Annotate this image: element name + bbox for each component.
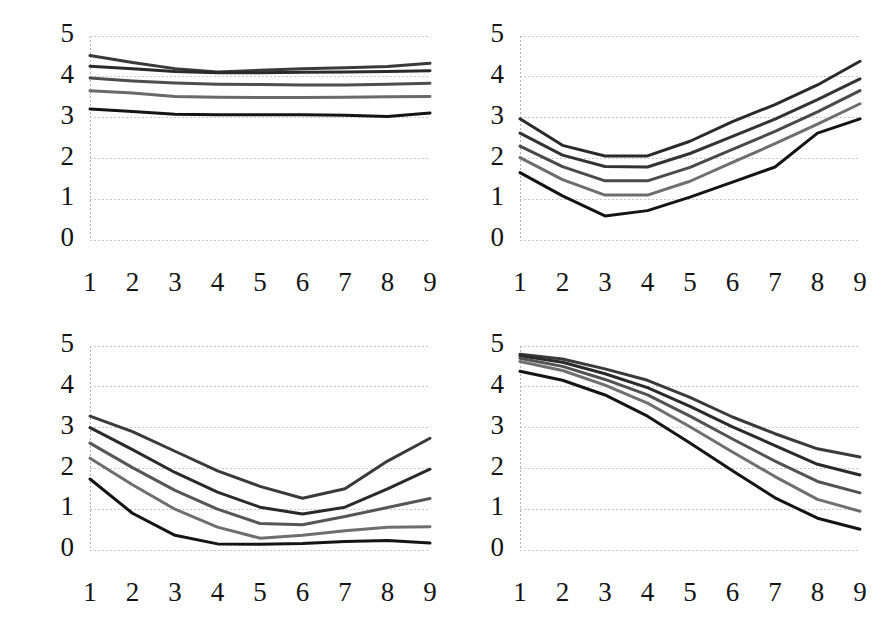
series-line-series-5 [520, 371, 860, 529]
four-panel-line-chart-figure: 012345123456789 012345123456789 01234512… [0, 0, 895, 634]
xtick-label-7: 7 [768, 577, 782, 607]
ytick-label-0: 0 [61, 222, 75, 252]
ytick-label-4: 4 [61, 59, 75, 89]
xtick-label-7: 7 [338, 577, 352, 607]
ytick-label-5: 5 [61, 18, 75, 48]
ytick-label-4: 4 [491, 59, 505, 89]
xtick-label-8: 8 [811, 577, 825, 607]
xtick-label-1: 1 [83, 577, 97, 607]
ytick-label-1: 1 [61, 181, 75, 211]
ytick-label-5: 5 [61, 328, 75, 358]
series-line-series-4 [90, 91, 430, 98]
chart-svg-bottom-right: 012345123456789 [448, 318, 878, 628]
ytick-label-3: 3 [61, 100, 75, 130]
xtick-label-4: 4 [641, 577, 655, 607]
chart-panel-top-left: 012345123456789 [18, 8, 448, 318]
xtick-label-4: 4 [211, 577, 225, 607]
xtick-label-1: 1 [83, 267, 97, 297]
ytick-label-4: 4 [491, 369, 505, 399]
ytick-label-2: 2 [61, 451, 75, 481]
xtick-label-8: 8 [381, 267, 395, 297]
xtick-label-5: 5 [253, 267, 267, 297]
xtick-label-2: 2 [556, 577, 570, 607]
xtick-label-9: 9 [423, 577, 437, 607]
xtick-label-7: 7 [338, 267, 352, 297]
ytick-label-1: 1 [61, 491, 75, 521]
ytick-label-2: 2 [61, 141, 75, 171]
chart-svg-top-right: 012345123456789 [448, 8, 878, 318]
ytick-label-3: 3 [61, 410, 75, 440]
chart-svg-bottom-left: 012345123456789 [18, 318, 448, 628]
ytick-label-1: 1 [491, 491, 505, 521]
ytick-label-2: 2 [491, 141, 505, 171]
ytick-label-0: 0 [491, 532, 505, 562]
xtick-label-6: 6 [726, 577, 740, 607]
series-line-series-2 [520, 79, 860, 167]
chart-panel-top-right: 012345123456789 [448, 8, 878, 318]
xtick-label-9: 9 [853, 577, 867, 607]
ytick-label-2: 2 [491, 451, 505, 481]
xtick-label-7: 7 [768, 267, 782, 297]
xtick-label-2: 2 [126, 267, 140, 297]
chart-panel-bottom-right: 012345123456789 [448, 318, 878, 628]
xtick-label-6: 6 [296, 577, 310, 607]
xtick-label-1: 1 [513, 577, 527, 607]
xtick-label-2: 2 [126, 577, 140, 607]
ytick-label-3: 3 [491, 410, 505, 440]
xtick-label-8: 8 [811, 267, 825, 297]
xtick-label-3: 3 [168, 577, 182, 607]
ytick-label-0: 0 [61, 532, 75, 562]
ytick-label-4: 4 [61, 369, 75, 399]
xtick-label-3: 3 [598, 267, 612, 297]
xtick-label-3: 3 [598, 577, 612, 607]
ytick-label-1: 1 [491, 181, 505, 211]
ytick-label-5: 5 [491, 18, 505, 48]
xtick-label-3: 3 [168, 267, 182, 297]
xtick-label-6: 6 [726, 267, 740, 297]
xtick-label-9: 9 [423, 267, 437, 297]
xtick-label-5: 5 [683, 267, 697, 297]
chart-panel-bottom-left: 012345123456789 [18, 318, 448, 628]
chart-svg-top-left: 012345123456789 [18, 8, 448, 318]
series-line-series-5 [90, 109, 430, 116]
xtick-label-6: 6 [296, 267, 310, 297]
xtick-label-9: 9 [853, 267, 867, 297]
ytick-label-5: 5 [491, 328, 505, 358]
xtick-label-5: 5 [683, 577, 697, 607]
xtick-label-8: 8 [381, 577, 395, 607]
xtick-label-2: 2 [556, 267, 570, 297]
series-line-series-3 [90, 78, 430, 85]
xtick-label-4: 4 [211, 267, 225, 297]
ytick-label-0: 0 [491, 222, 505, 252]
xtick-label-4: 4 [641, 267, 655, 297]
xtick-label-1: 1 [513, 267, 527, 297]
series-line-series-4 [90, 458, 430, 538]
ytick-label-3: 3 [491, 100, 505, 130]
xtick-label-5: 5 [253, 577, 267, 607]
series-line-series-1 [90, 416, 430, 498]
